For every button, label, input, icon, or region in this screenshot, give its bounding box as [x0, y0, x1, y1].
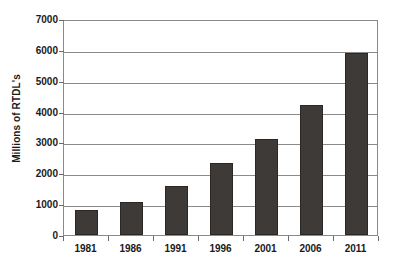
bar: [210, 163, 233, 235]
x-axis-tick-mark: [108, 236, 109, 241]
y-axis-tick-label: 7000: [24, 15, 58, 25]
y-axis-title-text: Millions of RTDL's: [11, 74, 22, 163]
x-axis-tick-mark: [333, 236, 334, 241]
y-axis-tick-label: 6000: [24, 46, 58, 56]
x-axis-tick-label: 1996: [209, 244, 231, 254]
y-axis-tick-mark: [59, 51, 64, 52]
bar: [75, 210, 98, 235]
bar: [120, 202, 143, 235]
y-axis-tick-mark: [59, 205, 64, 206]
bar: [300, 105, 323, 235]
x-axis-tick-label: 2006: [299, 244, 321, 254]
y-axis-tick-labels: 01000200030004000500060007000: [24, 0, 58, 278]
y-axis-tick-label: 3000: [24, 138, 58, 148]
bars-group: [64, 21, 377, 235]
x-axis-tick-mark: [378, 236, 379, 241]
bar-chart: Millions of RTDL's 010002000300040005000…: [0, 0, 406, 278]
x-axis-tick-label: 1991: [164, 244, 186, 254]
x-axis-tick-label: 1981: [74, 244, 96, 254]
x-axis-tick-mark: [288, 236, 289, 241]
y-axis-tick-mark: [59, 82, 64, 83]
bar: [345, 53, 368, 235]
y-axis-tick-mark: [59, 20, 64, 21]
x-axis-tick-mark: [153, 236, 154, 241]
y-axis-tick-label: 0: [24, 231, 58, 241]
x-axis-tick-labels: 1981198619911996200120062011: [63, 244, 378, 260]
y-axis-tick-label: 4000: [24, 108, 58, 118]
x-axis-tick-mark: [63, 236, 64, 241]
x-axis-tick-label: 1986: [119, 244, 141, 254]
y-axis-tick-mark: [59, 174, 64, 175]
x-axis-tick-mark: [198, 236, 199, 241]
x-axis-tick-label: 2011: [345, 244, 367, 254]
y-axis-tick-label: 5000: [24, 77, 58, 87]
y-axis-tick-label: 2000: [24, 169, 58, 179]
bar: [165, 186, 188, 235]
y-axis-tick-label: 1000: [24, 200, 58, 210]
x-axis-tick-label: 2001: [254, 244, 276, 254]
y-axis-tick-mark: [59, 113, 64, 114]
x-axis-tick-mark: [243, 236, 244, 241]
y-axis-title: Millions of RTDL's: [6, 0, 26, 236]
plot-area: [63, 20, 378, 236]
bar: [255, 139, 278, 235]
y-axis-tick-mark: [59, 143, 64, 144]
